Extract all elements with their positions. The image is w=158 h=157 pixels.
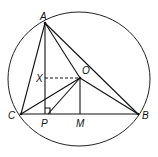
label-x: X bbox=[35, 73, 43, 84]
label-a: A bbox=[39, 11, 47, 22]
label-b: B bbox=[142, 110, 149, 121]
label-c: C bbox=[8, 110, 16, 121]
label-o: O bbox=[82, 65, 90, 76]
segment-ob bbox=[80, 78, 138, 114]
point-b bbox=[137, 113, 140, 116]
point-a bbox=[44, 22, 47, 25]
label-m: M bbox=[76, 118, 85, 129]
segment-op bbox=[48, 78, 80, 114]
point-o bbox=[79, 77, 82, 80]
segment-ac bbox=[21, 23, 45, 114]
geometry-diagram: A B C O P M X bbox=[0, 0, 158, 157]
segment-ao bbox=[45, 23, 80, 78]
segment-ab bbox=[45, 23, 138, 114]
label-p: P bbox=[41, 118, 48, 129]
point-c bbox=[20, 113, 23, 116]
